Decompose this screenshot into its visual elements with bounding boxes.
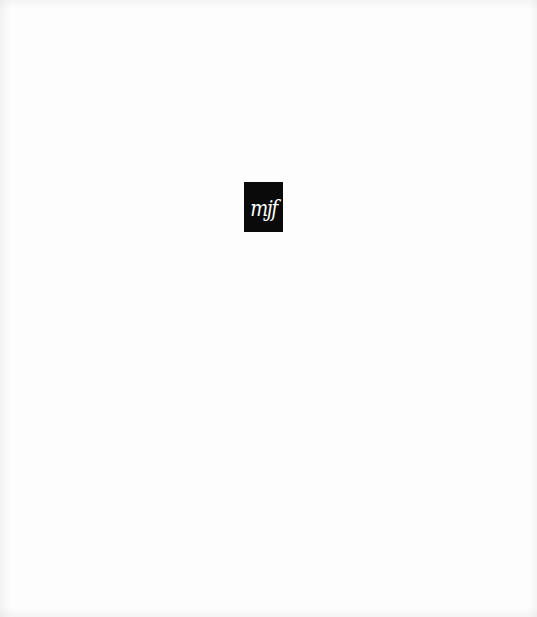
scanned-page: mjf (0, 0, 537, 617)
logo-monogram-text: mjf (250, 197, 276, 219)
mjf-logo-icon: mjf (244, 182, 283, 232)
